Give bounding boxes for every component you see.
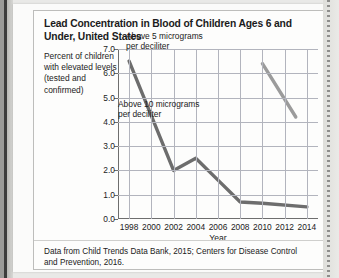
x-tick-label: 2004 <box>186 222 205 232</box>
gridline-vertical <box>240 49 241 219</box>
x-tick-label: 1998 <box>120 222 139 232</box>
figure-card: Lead Concentration in Blood of Children … <box>33 10 327 270</box>
annotation-above-10: Above 10 micrograms per deciliter <box>118 99 199 120</box>
x-tick-label: 2006 <box>209 222 228 232</box>
plot-area: 0.01.02.03.04.05.06.07.01998200020022004… <box>118 49 318 219</box>
page-perforation-strip <box>323 0 339 278</box>
x-tick-label: 2002 <box>164 222 183 232</box>
y-tick-label: 5.0 <box>93 93 115 103</box>
x-tick-label: 2000 <box>142 222 161 232</box>
annotation-above-5-line2: per deciliter <box>126 41 203 51</box>
gridline-vertical <box>151 49 152 219</box>
gridline-vertical <box>129 49 130 219</box>
x-tick-label: 2010 <box>253 222 272 232</box>
page-surface: Lead Concentration in Blood of Children … <box>13 4 323 272</box>
annotation-above-5-line1: Above 5 micrograms <box>126 31 203 41</box>
gridline-vertical <box>262 49 263 219</box>
y-tick-label: 3.0 <box>93 141 115 151</box>
gridline-vertical <box>196 49 197 219</box>
annotation-above-10-line1: Above 10 micrograms <box>118 99 199 109</box>
gridline-vertical <box>307 49 308 219</box>
y-tick-label: 6.0 <box>93 68 115 78</box>
y-tick-label: 7.0 <box>93 44 115 54</box>
source-note: Data from Child Trends Data Bank, 2015; … <box>44 247 306 268</box>
footer-divider <box>34 240 326 241</box>
gridline-vertical <box>218 49 219 219</box>
scanned-page: Lead Concentration in Blood of Children … <box>0 0 339 278</box>
y-tick-label: 4.0 <box>93 117 115 127</box>
series-line <box>262 64 295 117</box>
y-tick-label: 1.0 <box>93 190 115 200</box>
gridline-vertical <box>174 49 175 219</box>
x-axis-title: Year <box>118 233 318 243</box>
x-tick-label: 2008 <box>231 222 250 232</box>
y-tick-label: 0.0 <box>93 214 115 224</box>
annotation-above-10-line2: per deciliter <box>118 109 199 119</box>
annotation-above-5: Above 5 micrograms per deciliter <box>126 31 203 52</box>
y-tick-label: 2.0 <box>93 165 115 175</box>
x-tick-label: 2014 <box>298 222 317 232</box>
gridline-vertical <box>285 49 286 219</box>
x-tick-label: 2012 <box>275 222 294 232</box>
perforation-dots <box>327 0 330 278</box>
